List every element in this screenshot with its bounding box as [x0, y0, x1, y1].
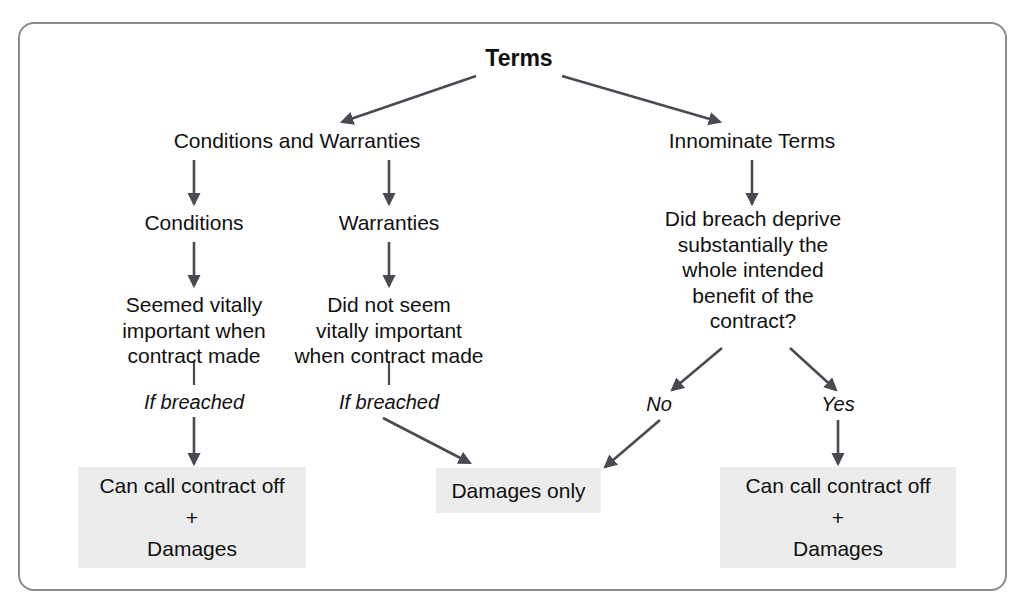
node-conditions-detail: Seemed vitally important when contract m… — [84, 292, 304, 369]
outcome-box-left: Can call contract off + Damages — [78, 467, 306, 568]
node-conditions: Conditions — [114, 210, 274, 236]
label-if-breached-left: If breached — [114, 390, 274, 414]
node-warranties-detail: Did not seem vitally important when cont… — [274, 292, 504, 369]
node-warranties: Warranties — [309, 210, 469, 236]
node-terms: Terms — [444, 44, 594, 72]
label-no: No — [623, 392, 695, 416]
label-yes: Yes — [802, 392, 874, 416]
node-innominate-question: Did breach deprive substantially the who… — [642, 206, 864, 334]
outcome-box-right: Can call contract off + Damages — [720, 467, 956, 568]
node-conditions-and-warranties: Conditions and Warranties — [152, 128, 442, 154]
outcome-box-middle: Damages only — [436, 468, 601, 513]
label-if-breached-middle: If breached — [309, 390, 469, 414]
node-innominate-terms: Innominate Terms — [642, 128, 862, 154]
diagram-canvas: Terms Conditions and Warranties Innomina… — [0, 0, 1025, 611]
